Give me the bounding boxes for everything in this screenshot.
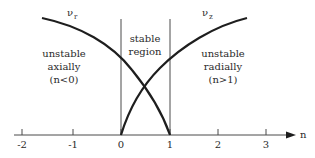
tick-label: 1 (167, 139, 173, 150)
tick-label: 0 (118, 139, 124, 150)
svg-text:ν: ν (202, 7, 208, 18)
label-nu-r: ν r (67, 7, 78, 21)
axis-tick-labels: -2 -1 0 1 2 3 (17, 139, 269, 150)
tick-label: -1 (68, 139, 78, 150)
svg-text:z: z (209, 13, 213, 21)
region-label-left: unstable axially (n<0) (42, 48, 86, 85)
svg-text:region: region (129, 46, 162, 57)
axis-ticks (22, 129, 266, 135)
region-label-right: unstable radially (n>1) (201, 48, 245, 85)
svg-text:axially: axially (48, 61, 81, 72)
tick-label: 3 (263, 139, 269, 150)
svg-text:unstable: unstable (201, 48, 245, 59)
svg-text:radially: radially (204, 61, 243, 72)
svg-text:(n>1): (n>1) (209, 74, 238, 85)
svg-text:(n<0): (n<0) (50, 74, 79, 85)
svg-text:stable: stable (130, 33, 161, 44)
stability-diagram: n -2 -1 0 1 2 3 ν r (0, 0, 315, 158)
diagram-canvas: n -2 -1 0 1 2 3 ν r (0, 0, 315, 158)
svg-text:ν: ν (67, 7, 73, 18)
axis-label-n: n (300, 129, 307, 140)
svg-text:unstable: unstable (42, 48, 86, 59)
label-nu-z: ν z (202, 7, 213, 21)
tick-label: -2 (17, 139, 27, 150)
tick-label: 2 (215, 139, 221, 150)
svg-text:r: r (74, 13, 78, 21)
region-label-middle: stable region (129, 33, 162, 57)
axis-arrow-icon (286, 132, 296, 139)
